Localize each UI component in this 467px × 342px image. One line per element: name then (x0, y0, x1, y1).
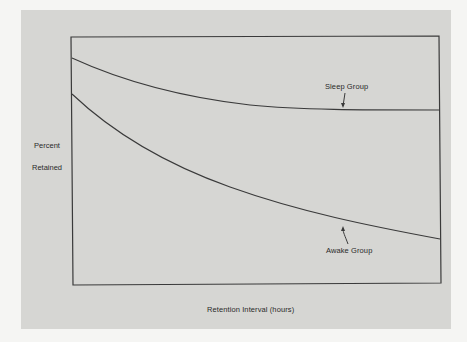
x-axis-label: Retention Interval (hours) (207, 305, 294, 314)
plot-frame (71, 36, 441, 285)
awake-arrow-icon (341, 226, 348, 244)
sleep-group-label: Sleep Group (325, 82, 368, 91)
y-axis-label-line1: Percent (17, 141, 77, 150)
sleep-arrow-icon (341, 93, 345, 108)
awake-group-label: Awake Group (326, 246, 372, 255)
awake-group-line (72, 94, 440, 239)
sleep-group-line (72, 58, 439, 110)
y-axis-label-line2: Retained (17, 163, 77, 172)
